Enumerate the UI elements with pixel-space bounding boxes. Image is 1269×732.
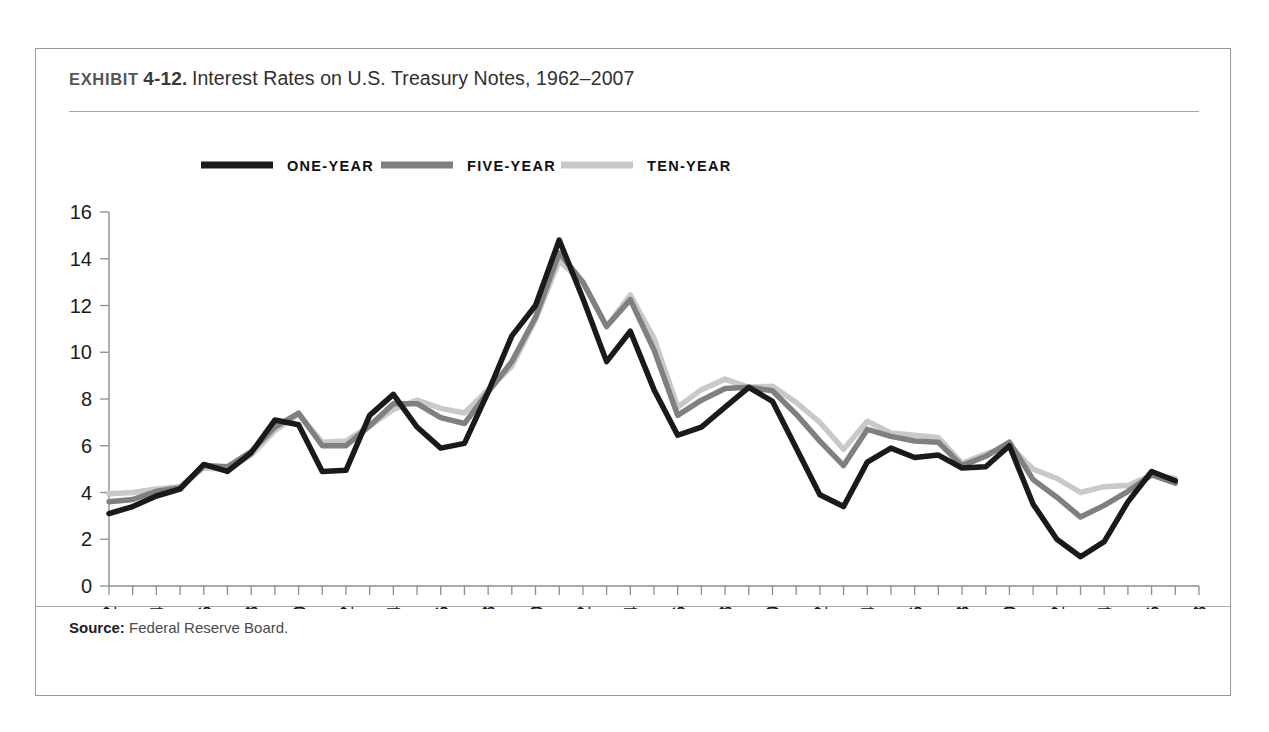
y-tick-label: 4	[81, 482, 92, 504]
y-tick-label: 2	[81, 528, 92, 550]
source-note: Source: Federal Reserve Board.	[69, 619, 288, 636]
line-chart: ONE-YEARFIVE-YEARTEN-YEAR 0246810121416 …	[36, 109, 1232, 609]
source-text: Federal Reserve Board.	[129, 619, 288, 636]
source-divider	[36, 606, 1230, 607]
series-line-five-year	[109, 253, 1175, 517]
y-tick-label: 10	[70, 341, 92, 363]
y-tick-label: 16	[70, 201, 92, 223]
exhibit-label: EXHIBIT	[69, 70, 139, 88]
y-tick-label: 12	[70, 295, 92, 317]
exhibit-number: 4-12.	[143, 68, 187, 89]
source-label: Source:	[69, 619, 125, 636]
legend-label: ONE-YEAR	[287, 158, 374, 174]
page-root: EXHIBIT 4-12. Interest Rates on U.S. Tre…	[0, 0, 1269, 732]
y-tick-label: 8	[81, 388, 92, 410]
series-line-one-year	[109, 240, 1175, 557]
exhibit-frame: EXHIBIT 4-12. Interest Rates on U.S. Tre…	[35, 48, 1231, 696]
exhibit-title: Interest Rates on U.S. Treasury Notes, 1…	[192, 67, 635, 89]
series-lines	[109, 240, 1175, 557]
chart-legend: ONE-YEARFIVE-YEARTEN-YEAR	[201, 158, 732, 174]
y-tick-label: 6	[81, 435, 92, 457]
legend-label: FIVE-YEAR	[467, 158, 556, 174]
y-tick-label: 14	[70, 248, 92, 270]
y-tick-label: 0	[81, 575, 92, 597]
exhibit-header: EXHIBIT 4-12. Interest Rates on U.S. Tre…	[36, 49, 1230, 105]
y-axis: 0246810121416	[70, 201, 109, 597]
chart-plot-area: ONE-YEARFIVE-YEARTEN-YEAR 0246810121416 …	[36, 109, 1232, 609]
legend-label: TEN-YEAR	[647, 158, 732, 174]
